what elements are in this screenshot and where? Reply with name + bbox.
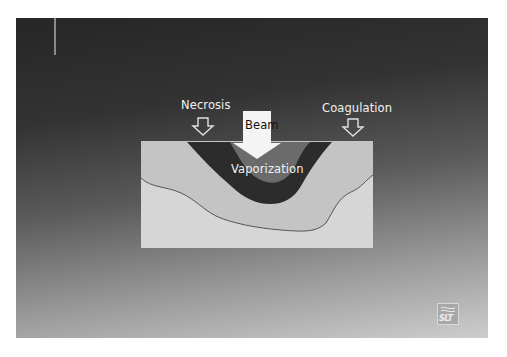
beam-label: Beam	[245, 118, 279, 132]
vaporization-label: Vaporization	[231, 162, 304, 176]
logo-text: SLT	[439, 314, 453, 323]
coagulation-arrow-icon	[343, 119, 363, 136]
necrosis-label: Necrosis	[181, 98, 231, 112]
laser-tissue-diagram	[16, 18, 488, 338]
slt-logo: SLT	[437, 303, 459, 325]
slide-panel: Necrosis Coagulation Beam Vaporization S…	[16, 18, 488, 338]
coagulation-label: Coagulation	[322, 101, 392, 115]
figure-caption-cropped	[20, 350, 490, 357]
necrosis-arrow-icon	[193, 118, 213, 135]
